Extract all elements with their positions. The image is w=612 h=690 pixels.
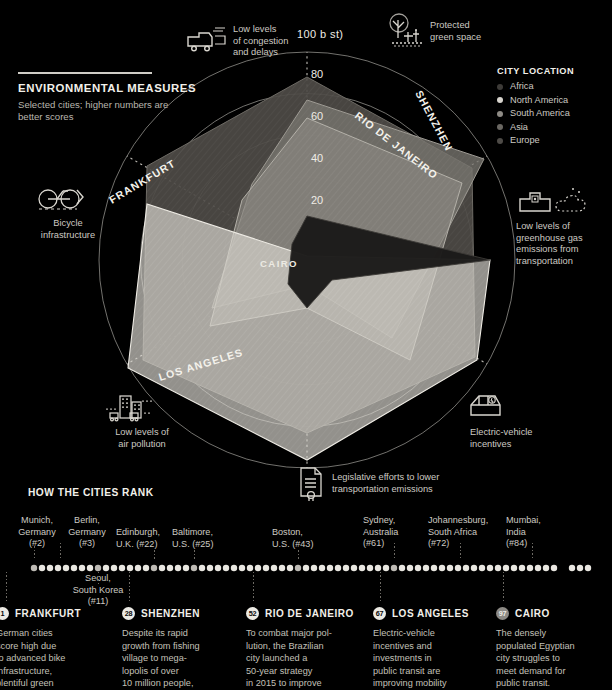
electric-vehicle-icon bbox=[466, 391, 510, 423]
rank-label-johannesburg: Johannesburg, South Africa (#72) bbox=[428, 515, 506, 550]
city-card-header: 28 SHENZHEN bbox=[122, 607, 240, 620]
axis-caption-air: Low levels of air pollution bbox=[96, 427, 188, 450]
axis-caption-congestion: Low levels of congestion and delays bbox=[233, 24, 311, 59]
rank-badge: 1 bbox=[0, 607, 9, 620]
rank-tick-edinburgh bbox=[154, 550, 155, 560]
city-card-shenzhen[interactable]: 28 SHENZHEN Despite its rapid growth fro… bbox=[122, 607, 240, 690]
city-name: LOS ANGELES bbox=[392, 608, 469, 619]
rank-tick-mumbai bbox=[532, 543, 533, 560]
ranking-dot-scale bbox=[0, 560, 612, 572]
city-name: SHENZHEN bbox=[141, 608, 200, 619]
card-connector-cairo bbox=[503, 572, 504, 602]
card-connector-rio bbox=[253, 572, 254, 602]
card-connector-la bbox=[380, 572, 381, 602]
rank-tick-boston bbox=[298, 550, 299, 560]
legislation-document-icon bbox=[297, 466, 325, 502]
card-connector-shenzhen bbox=[129, 572, 130, 602]
city-name: FRANKFURT bbox=[15, 608, 81, 619]
city-air-pollution-icon bbox=[104, 392, 154, 428]
rank-tick-baltimore bbox=[194, 550, 195, 560]
rank-label-berlin: Berlin, Germany (#3) bbox=[58, 515, 116, 550]
city-card-cairo[interactable]: 97 CAIRO The densely populated Egyptian … bbox=[496, 607, 612, 690]
city-name: RIO DE JANEIRO bbox=[265, 608, 354, 619]
park-tree-bench-icon bbox=[388, 12, 428, 52]
city-card-header: 67 LOS ANGELES bbox=[373, 607, 491, 620]
city-card-body: Despite its rapid growth from fishing vi… bbox=[122, 627, 240, 690]
rtick-40: 40 bbox=[311, 152, 323, 164]
rtick-20: 20 bbox=[311, 194, 323, 206]
rtick-60: 60 bbox=[311, 110, 323, 122]
ranking-title: HOW THE CITIES RANK bbox=[28, 487, 154, 498]
rank-tick-seoul bbox=[98, 572, 99, 585]
axis-caption-ev: Electric-vehicle incentives bbox=[470, 427, 560, 450]
city-card-body: German cities score high due to advanced… bbox=[0, 627, 116, 690]
rtick-80: 80 bbox=[311, 68, 323, 80]
city-card-body: To combat major pol- lution, the Brazili… bbox=[246, 627, 370, 690]
factory-emissions-icon bbox=[516, 183, 592, 217]
rank-badge: 67 bbox=[373, 607, 386, 620]
chart-label-cairo: CAIRO bbox=[260, 258, 298, 269]
card-connector-frankfurt bbox=[6, 572, 7, 602]
city-card-frankfurt[interactable]: 1 FRANKFURT German cities score high due… bbox=[0, 607, 116, 690]
axis-caption-green-space: Protected green space bbox=[430, 20, 516, 43]
axis-caption-bicycle: Bicycle infrastructure bbox=[22, 218, 114, 241]
rank-badge: 97 bbox=[496, 607, 509, 620]
traffic-congestion-icon bbox=[185, 24, 229, 54]
bicycle-icon bbox=[37, 186, 93, 212]
axis-caption-greenhouse: Low levels of greenhouse gas emissions f… bbox=[516, 221, 608, 267]
city-card-body: The densely populated Egyptian city stru… bbox=[496, 627, 612, 690]
city-card-header: 1 FRANKFURT bbox=[0, 607, 116, 620]
rank-tick-munich bbox=[34, 543, 35, 560]
city-card-header: 97 CAIRO bbox=[496, 607, 612, 620]
city-card-body: Electric-vehicle incentives and investme… bbox=[373, 627, 491, 690]
city-card-header: 52 RIO DE JANEIRO bbox=[246, 607, 370, 620]
rank-tick-berlin bbox=[60, 543, 61, 560]
axis-caption-legislation: Legislative efforts to lower transportat… bbox=[332, 472, 492, 495]
rank-badge: 52 bbox=[246, 607, 259, 620]
rank-tick-johannesburg bbox=[460, 543, 461, 560]
city-card-rio-de-janeiro[interactable]: 52 RIO DE JANEIRO To combat major pol- l… bbox=[246, 607, 370, 690]
rank-label-boston: Boston, U.S. (#43) bbox=[272, 527, 332, 550]
rank-tick-sydney bbox=[394, 543, 395, 560]
radar-chart: FRANKFURT SHENZHEN RIO DE JANEIRO LOS AN… bbox=[92, 8, 522, 468]
city-name: CAIRO bbox=[515, 608, 550, 619]
rank-label-edinburgh: Edinburgh, U.K. (#22) bbox=[116, 527, 174, 550]
city-card-los-angeles[interactable]: 67 LOS ANGELES Electric-vehicle incentiv… bbox=[373, 607, 491, 690]
rank-label-mumbai: Mumbai, India (#84) bbox=[506, 515, 568, 550]
rank-badge: 28 bbox=[122, 607, 135, 620]
rank-label-baltimore: Baltimore, U.S. (#25) bbox=[172, 527, 234, 550]
